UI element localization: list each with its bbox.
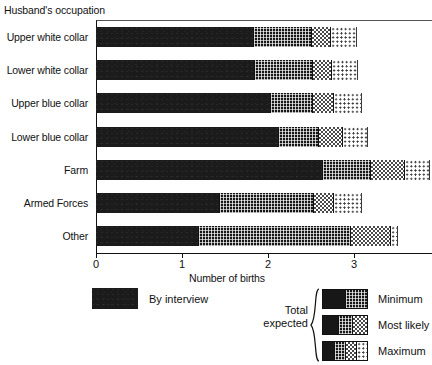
- bar-segment-minimum: [278, 127, 318, 147]
- legend-label-maximum: Maximum: [378, 345, 426, 357]
- bar-segment-by-interview: [96, 27, 253, 47]
- legend-entry-minimum: Minimum: [322, 289, 423, 309]
- bar-segment-maximum: [330, 27, 358, 47]
- category-label-upper-blue-collar: Upper blue collar: [11, 97, 88, 109]
- legend-swatch-minimum: [322, 289, 368, 309]
- bar-segment-by-interview: [96, 160, 322, 180]
- bar-segment-most-likely: [311, 27, 330, 47]
- swatch-part-most-likely: [352, 316, 368, 334]
- bar-segment-minimum: [322, 160, 370, 180]
- legend-group-total-expected: Total expected Minimum Most likely: [252, 287, 432, 363]
- legend-label-minimum: Minimum: [378, 293, 423, 305]
- x-tick-label-3: 3: [351, 258, 357, 270]
- legend-swatch-most-likely: [322, 315, 368, 335]
- bar-segment-minimum: [198, 226, 349, 246]
- bar-segment-minimum: [270, 93, 312, 113]
- category-label-upper-white-collar: Upper white collar: [7, 31, 88, 43]
- legend-label-by-interview: By interview: [149, 293, 208, 305]
- plot-area: [96, 20, 432, 253]
- x-tick-label-1: 1: [179, 258, 185, 270]
- y-axis-group-title: Husband's occupation: [4, 4, 105, 16]
- legend-label-most-likely: Most likely: [378, 319, 429, 331]
- bar-segment-most-likely: [318, 127, 342, 147]
- category-label-other: Other: [62, 230, 88, 242]
- swatch-part-black: [323, 342, 334, 360]
- bar-segment-maximum: [333, 93, 361, 113]
- swatch-part-maximum: [356, 342, 368, 360]
- bar-segment-by-interview: [96, 226, 198, 246]
- bar-segment-by-interview: [96, 93, 270, 113]
- category-label-farm: Farm: [64, 164, 88, 176]
- bar-segment-maximum: [331, 60, 359, 80]
- legend-entry-maximum: Maximum: [322, 341, 426, 361]
- bar-segment-minimum: [219, 193, 313, 213]
- x-axis-title: Number of births: [0, 272, 432, 284]
- legend-label-total-expected: Total expected: [250, 304, 308, 330]
- bar-segment-minimum: [253, 27, 311, 47]
- legend-entry-by-interview: By interview: [92, 288, 208, 309]
- bar-segment-maximum: [333, 193, 361, 213]
- legend-label-total-line1: Total: [250, 304, 308, 317]
- x-axis-title-text: Number of births: [189, 272, 265, 284]
- category-label-lower-white-collar: Lower white collar: [7, 64, 88, 76]
- x-axis-line: [96, 253, 432, 254]
- bar-segment-most-likely: [313, 193, 334, 213]
- legend-swatch-by-interview: [92, 288, 138, 309]
- category-label-lower-blue-collar: Lower blue collar: [11, 131, 88, 143]
- category-label-column: Upper white collarLower white collarUppe…: [0, 20, 92, 253]
- bar-segment-maximum: [342, 127, 368, 147]
- swatch-part-black: [323, 290, 345, 308]
- bar-segment-by-interview: [96, 127, 278, 147]
- bar-segment-most-likely: [350, 226, 390, 246]
- swatch-part-minimum: [338, 316, 354, 334]
- bar-segment-most-likely: [312, 93, 333, 113]
- x-tick-label-2: 2: [265, 258, 271, 270]
- bar-segment-most-likely: [370, 160, 404, 180]
- swatch-part-minimum: [345, 290, 368, 308]
- bar-segment-minimum: [254, 60, 312, 80]
- bar-segment-most-likely: [312, 60, 331, 80]
- swatch-part-black: [323, 316, 338, 334]
- bar-segment-maximum: [404, 160, 430, 180]
- legend-swatch-maximum: [322, 341, 368, 361]
- bar-segment-maximum: [390, 226, 398, 246]
- bar-segment-by-interview: [96, 193, 219, 213]
- bar-segment-by-interview: [96, 60, 254, 80]
- legend-label-total-line2: expected: [250, 317, 308, 330]
- x-tick-label-0: 0: [93, 258, 99, 270]
- category-label-armed-forces: Armed Forces: [24, 197, 88, 209]
- legend-entry-most-likely: Most likely: [322, 315, 429, 335]
- chart-legend: By interview Total expected Minimum Most…: [0, 287, 432, 365]
- curly-brace-icon: [310, 288, 320, 362]
